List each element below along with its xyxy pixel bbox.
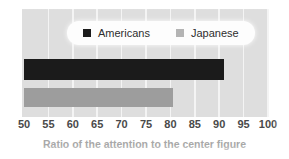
- x-tick-label: 60: [67, 119, 79, 130]
- x-tick-label: 80: [164, 119, 176, 130]
- x-tick-label: 100: [259, 119, 277, 130]
- legend-item-japanese: Japanese: [176, 28, 239, 39]
- x-axis: 50556065707580859095100: [22, 119, 268, 133]
- legend-label-japanese: Japanese: [191, 28, 239, 39]
- x-tick-label: 90: [213, 119, 225, 130]
- bar-americans: [24, 59, 224, 80]
- x-axis-title: Ratio of the attention to the center fig…: [0, 139, 289, 150]
- x-tick-label: 55: [42, 119, 54, 130]
- gridline: [267, 9, 269, 117]
- legend-item-americans: Americans: [83, 28, 150, 39]
- x-tick-label: 65: [91, 119, 103, 130]
- legend-label-americans: Americans: [98, 28, 150, 39]
- x-tick-label: 75: [140, 119, 152, 130]
- bar-chart-figure: Americans Japanese 505560657075808590951…: [0, 0, 289, 159]
- x-tick-label: 70: [115, 119, 127, 130]
- bar-japanese: [24, 88, 173, 107]
- legend-swatch-icon-americans: [83, 29, 91, 37]
- x-tick-label: 95: [237, 119, 249, 130]
- x-tick-label: 85: [189, 119, 201, 130]
- legend-swatch-icon-japanese: [176, 29, 184, 37]
- chart-legend: Americans Japanese: [67, 21, 255, 45]
- x-tick-label: 50: [18, 119, 30, 130]
